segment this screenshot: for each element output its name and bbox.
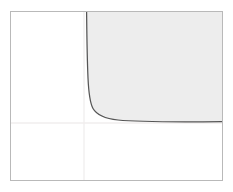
hyperbola-region-chart [0, 0, 233, 192]
shaded-region [87, 12, 222, 122]
figure-root [0, 0, 233, 192]
